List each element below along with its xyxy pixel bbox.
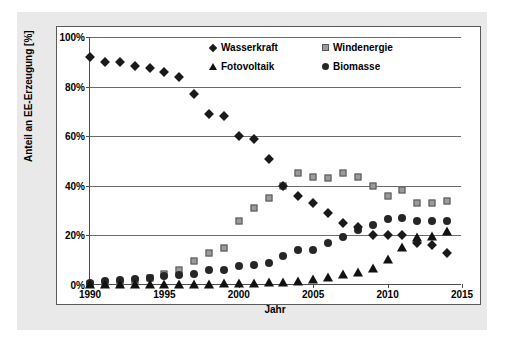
data-point-biomasse bbox=[384, 215, 392, 223]
legend-item-fotovoltaik: Fotovoltaik bbox=[207, 61, 319, 72]
data-point-windenergie bbox=[265, 195, 272, 202]
data-point-wasserkraft bbox=[145, 63, 155, 73]
data-point-biomasse bbox=[220, 266, 228, 274]
data-point-fotovoltaik bbox=[189, 279, 199, 288]
data-point-wasserkraft bbox=[219, 111, 229, 121]
data-point-fotovoltaik bbox=[130, 280, 140, 289]
legend-item-windenergie: Windenergie bbox=[319, 42, 431, 53]
plot-area: 0%20%40%60%80%100% 199019952000200520102… bbox=[89, 37, 461, 285]
x-tick-mark bbox=[462, 284, 463, 288]
data-point-biomasse bbox=[190, 270, 198, 278]
data-point-fotovoltaik bbox=[145, 280, 155, 289]
legend-item-biomasse: Biomasse bbox=[319, 61, 431, 72]
data-point-windenergie bbox=[295, 170, 302, 177]
data-point-fotovoltaik bbox=[442, 226, 452, 235]
data-point-windenergie bbox=[250, 205, 257, 212]
data-point-biomasse bbox=[428, 217, 436, 225]
data-point-biomasse bbox=[324, 239, 332, 247]
data-point-wasserkraft bbox=[115, 57, 125, 67]
data-point-biomasse bbox=[413, 217, 421, 225]
gridline bbox=[90, 37, 461, 38]
circle-icon-glyph bbox=[322, 63, 329, 70]
data-point-fotovoltaik bbox=[323, 272, 333, 281]
data-point-fotovoltaik bbox=[353, 267, 363, 276]
data-point-windenergie bbox=[444, 197, 451, 204]
data-point-fotovoltaik bbox=[219, 279, 229, 288]
data-point-fotovoltaik bbox=[368, 263, 378, 272]
data-point-fotovoltaik bbox=[383, 255, 393, 264]
chart-object-area: Anteil an EE-Erzeugung [%] Jahr 0%20%40%… bbox=[17, 12, 487, 330]
data-point-biomasse bbox=[205, 266, 213, 274]
x-tick-label: 1995 bbox=[153, 289, 175, 300]
y-tick-mark bbox=[86, 235, 90, 236]
data-point-wasserkraft bbox=[427, 240, 437, 250]
data-point-windenergie bbox=[384, 192, 391, 199]
x-tick-mark bbox=[313, 284, 314, 288]
data-point-wasserkraft bbox=[204, 109, 214, 119]
y-tick-label: 40% bbox=[65, 180, 85, 191]
x-axis-title: Jahr bbox=[89, 304, 461, 315]
data-point-biomasse bbox=[250, 261, 258, 269]
data-point-wasserkraft bbox=[189, 89, 199, 99]
data-point-fotovoltaik bbox=[249, 278, 259, 287]
data-point-fotovoltaik bbox=[308, 275, 318, 284]
data-point-fotovoltaik bbox=[234, 279, 244, 288]
data-point-wasserkraft bbox=[234, 131, 244, 141]
data-point-windenergie bbox=[220, 244, 227, 251]
y-tick-label: 60% bbox=[65, 131, 85, 142]
legend-item-label: Fotovoltaik bbox=[221, 61, 274, 72]
data-point-windenergie bbox=[310, 174, 317, 181]
data-point-wasserkraft bbox=[293, 191, 303, 201]
triangle-icon-glyph bbox=[209, 63, 217, 70]
data-point-wasserkraft bbox=[308, 198, 318, 208]
y-tick-mark bbox=[86, 186, 90, 187]
data-point-fotovoltaik bbox=[174, 280, 184, 289]
y-tick-label: 20% bbox=[65, 230, 85, 241]
data-point-windenergie bbox=[325, 175, 332, 182]
data-point-fotovoltaik bbox=[204, 279, 214, 288]
data-point-wasserkraft bbox=[442, 248, 452, 258]
legend-item-label: Biomasse bbox=[333, 61, 380, 72]
legend-item-wasserkraft: Wasserkraft bbox=[207, 42, 319, 53]
data-point-biomasse bbox=[279, 252, 287, 260]
data-point-biomasse bbox=[265, 259, 273, 267]
data-point-wasserkraft bbox=[100, 57, 110, 67]
data-point-windenergie bbox=[399, 186, 406, 193]
data-point-wasserkraft bbox=[383, 230, 393, 240]
legend-item-label: Windenergie bbox=[333, 42, 393, 53]
y-tick-label: 100% bbox=[59, 32, 85, 43]
data-point-windenergie bbox=[414, 200, 421, 207]
data-point-windenergie bbox=[235, 217, 242, 224]
data-point-fotovoltaik bbox=[338, 270, 348, 279]
x-tick-label: 2015 bbox=[451, 289, 473, 300]
data-point-biomasse bbox=[339, 233, 347, 241]
data-point-wasserkraft bbox=[130, 61, 140, 71]
y-tick-mark bbox=[86, 87, 90, 88]
square-icon-glyph bbox=[322, 44, 329, 51]
x-tick-label: 1990 bbox=[79, 289, 101, 300]
data-point-biomasse bbox=[175, 271, 183, 279]
data-point-windenergie bbox=[191, 258, 198, 265]
data-point-fotovoltaik bbox=[278, 277, 288, 286]
data-point-wasserkraft bbox=[323, 208, 333, 218]
data-point-wasserkraft bbox=[398, 230, 408, 240]
gridline bbox=[90, 87, 461, 88]
data-point-biomasse bbox=[309, 246, 317, 254]
data-point-fotovoltaik bbox=[293, 276, 303, 285]
gridline bbox=[90, 136, 461, 137]
data-point-biomasse bbox=[369, 221, 377, 229]
data-point-fotovoltaik bbox=[159, 280, 169, 289]
data-point-fotovoltaik bbox=[264, 278, 274, 287]
x-tick-mark bbox=[388, 284, 389, 288]
data-point-fotovoltaik bbox=[100, 280, 110, 289]
data-point-wasserkraft bbox=[159, 67, 169, 77]
data-point-wasserkraft bbox=[368, 230, 378, 240]
circle-icon bbox=[319, 63, 331, 70]
diamond-icon-glyph bbox=[209, 43, 217, 51]
y-tick-mark bbox=[86, 136, 90, 137]
data-point-biomasse bbox=[443, 217, 451, 225]
data-point-fotovoltaik bbox=[85, 280, 95, 289]
data-point-wasserkraft bbox=[338, 218, 348, 228]
data-point-biomasse bbox=[294, 246, 302, 254]
y-tick-label: 80% bbox=[65, 81, 85, 92]
